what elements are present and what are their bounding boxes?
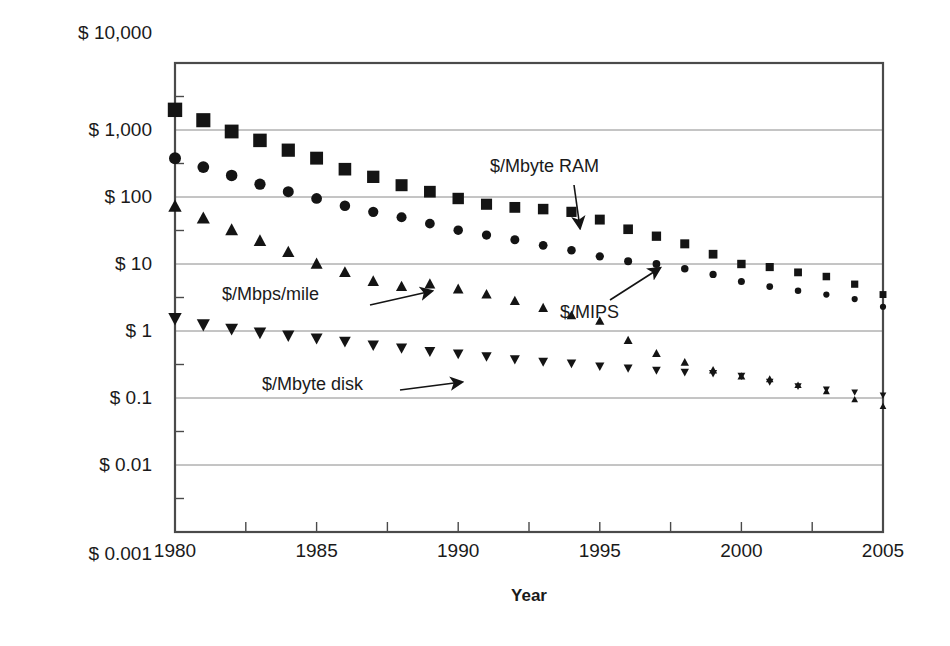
- x-axis-tick-label: 1990: [437, 540, 479, 561]
- data-point: [567, 246, 576, 255]
- annotation-label-disk: $/Mbyte disk: [262, 374, 364, 394]
- data-point: [283, 186, 294, 197]
- y-axis-tick-label: $ 10,000: [78, 22, 152, 43]
- data-point: [681, 265, 689, 273]
- data-point: [709, 271, 716, 278]
- data-point: [225, 125, 239, 139]
- data-point: [396, 179, 408, 191]
- data-point: [509, 202, 520, 213]
- x-axis-tick-label: 2005: [862, 540, 904, 561]
- data-point: [254, 179, 265, 190]
- data-point: [397, 212, 407, 222]
- data-point: [310, 152, 323, 165]
- data-point: [880, 291, 887, 298]
- y-axis-tick-label: $ 10: [115, 253, 152, 274]
- y-axis-tick-label: $ 0.01: [99, 454, 152, 475]
- data-point: [653, 260, 661, 268]
- data-point: [368, 207, 378, 217]
- y-axis-tick-label: $ 0.1: [110, 387, 152, 408]
- data-point: [794, 268, 802, 276]
- data-point: [482, 230, 491, 239]
- data-point: [624, 257, 632, 265]
- data-point: [738, 278, 745, 285]
- data-point: [452, 193, 463, 204]
- data-point: [766, 283, 773, 290]
- x-axis-title: Year: [511, 586, 547, 605]
- data-point: [425, 219, 435, 229]
- data-point: [766, 263, 774, 271]
- x-axis-tick-label: 1980: [154, 540, 196, 561]
- data-point: [453, 225, 463, 235]
- data-point: [596, 252, 604, 260]
- data-point: [852, 296, 858, 302]
- data-point: [367, 171, 379, 183]
- data-point: [169, 152, 181, 164]
- data-point: [340, 201, 351, 212]
- data-point: [226, 170, 238, 182]
- data-point: [823, 291, 829, 297]
- cost-trends-log-scatter-chart: $ 0.001$ 0.01$ 0.1$ 1$ 10$ 100$ 1,000$ 1…: [0, 0, 950, 646]
- data-point: [595, 215, 605, 225]
- annotation-label-mips: $/MIPS: [560, 302, 619, 322]
- y-axis-tick-label: $ 1: [126, 320, 152, 341]
- data-point: [880, 304, 886, 310]
- data-point: [424, 186, 436, 198]
- data-point: [197, 161, 209, 173]
- data-point: [339, 163, 352, 176]
- data-point: [709, 250, 718, 259]
- y-axis-tick-label: $ 0.001: [89, 543, 152, 564]
- data-point: [795, 287, 802, 294]
- data-point: [539, 241, 548, 250]
- annotation-label-ram: $/Mbyte RAM: [490, 156, 599, 176]
- x-axis-tick-label: 1985: [295, 540, 337, 561]
- data-point: [196, 113, 210, 127]
- data-point: [510, 235, 519, 244]
- data-point: [253, 134, 267, 148]
- data-point: [168, 103, 182, 117]
- chart-container: $ 0.001$ 0.01$ 0.1$ 1$ 10$ 100$ 1,000$ 1…: [0, 0, 950, 646]
- y-axis-tick-label: $ 100: [104, 186, 152, 207]
- data-point: [680, 239, 689, 248]
- x-axis-tick-label: 2000: [720, 540, 762, 561]
- data-point: [737, 260, 745, 268]
- data-point: [823, 273, 831, 281]
- data-point: [538, 204, 549, 215]
- x-axis-tick-label: 1995: [579, 540, 621, 561]
- data-point: [481, 199, 492, 210]
- data-point: [566, 207, 576, 217]
- data-point: [652, 232, 661, 241]
- data-point: [623, 224, 633, 234]
- data-point: [311, 193, 322, 204]
- data-point: [282, 144, 295, 157]
- annotation-label-mbps: $/Mbps/mile: [222, 284, 319, 304]
- data-point: [851, 281, 858, 288]
- y-axis-tick-label: $ 1,000: [89, 119, 152, 140]
